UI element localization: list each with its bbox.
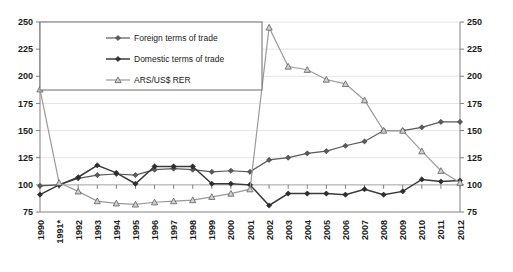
data-point: [438, 179, 443, 184]
x-tick-label: 2008: [379, 220, 389, 240]
data-point: [56, 180, 62, 186]
x-tick-label: 1998: [188, 220, 198, 240]
data-point: [266, 24, 272, 30]
x-tick-label: 2010: [417, 220, 427, 240]
data-point: [438, 119, 443, 124]
x-tick-label: 1999: [207, 220, 217, 240]
data-point: [343, 143, 348, 148]
x-tick-label: 1994: [112, 220, 122, 240]
x-tick-label: 2006: [341, 220, 351, 240]
data-point: [324, 191, 329, 196]
x-tick-label: 2000: [226, 220, 236, 240]
series-line: [40, 122, 460, 186]
y-tick-label-right: 250: [467, 17, 482, 27]
chart-container: 7575100100125125150150175175200200225225…: [0, 0, 513, 272]
y-tick-label-left: 225: [18, 44, 33, 54]
x-tick-label: 2004: [303, 220, 313, 240]
data-point: [324, 149, 329, 154]
x-tick-label: 2011: [436, 220, 446, 240]
data-point: [133, 172, 138, 177]
data-point: [362, 187, 367, 192]
y-tick-label-right: 75: [467, 207, 477, 217]
y-tick-label-right: 150: [467, 126, 482, 136]
x-tick-label: 2005: [322, 220, 332, 240]
y-tick-label-left: 175: [18, 99, 33, 109]
y-tick-label-left: 200: [18, 71, 33, 81]
x-tick-label: 1997: [169, 220, 179, 240]
x-tick-label: 1991*: [55, 220, 65, 244]
y-tick-label-left: 75: [23, 207, 33, 217]
y-tick-label-left: 125: [18, 153, 33, 163]
y-tick-label-right: 100: [467, 180, 482, 190]
x-tick-label: 1996: [150, 220, 160, 240]
y-tick-label-right: 200: [467, 71, 482, 81]
data-point: [37, 192, 42, 197]
x-tick-label: 1992: [74, 220, 84, 240]
x-tick-label: 1995: [131, 220, 141, 240]
data-point: [228, 168, 233, 173]
data-point: [75, 188, 81, 194]
y-tick-label-left: 150: [18, 126, 33, 136]
x-tick-label: 1990: [36, 220, 46, 240]
data-point: [37, 183, 42, 188]
series-foreign-terms-of-trade: [37, 119, 462, 188]
legend-label: Foreign terms of trade: [134, 33, 218, 43]
x-tick-label: 2001: [246, 220, 256, 240]
data-point: [362, 139, 367, 144]
y-tick-label-left: 250: [18, 17, 33, 27]
data-point: [228, 181, 233, 186]
data-point: [457, 119, 462, 124]
data-point: [343, 192, 348, 197]
x-tick-label: 2002: [265, 220, 275, 240]
y-tick-label-right: 175: [467, 99, 482, 109]
line-chart: 7575100100125125150150175175200200225225…: [0, 0, 513, 272]
y-tick-label-right: 225: [467, 44, 482, 54]
data-point: [209, 169, 214, 174]
legend: Foreign terms of tradeDomestic terms of …: [40, 22, 262, 90]
data-point: [286, 155, 291, 160]
legend-label: ARS/US$ RER: [134, 75, 191, 85]
legend-label: Domestic terms of trade: [134, 54, 224, 64]
data-point: [323, 76, 329, 82]
data-point: [381, 192, 386, 197]
data-point: [95, 172, 100, 177]
y-tick-label-left: 100: [18, 180, 33, 190]
x-tick-label: 2009: [398, 220, 408, 240]
data-point: [419, 125, 424, 130]
data-point: [305, 191, 310, 196]
y-tick-label-right: 125: [467, 153, 482, 163]
x-tick-label: 2007: [360, 220, 370, 240]
x-tick-label: 1993: [93, 220, 103, 240]
data-point: [305, 151, 310, 156]
x-tick-label: 2003: [284, 220, 294, 240]
x-tick-label: 2012: [456, 220, 466, 240]
